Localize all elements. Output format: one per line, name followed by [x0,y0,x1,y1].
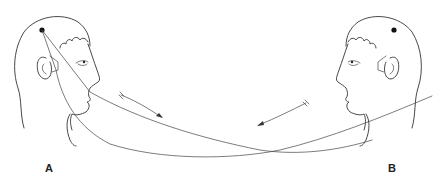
head-b [336,17,421,146]
eye-a [83,61,85,63]
head-a [15,17,100,146]
arrow-a [119,92,163,118]
electrode-dot-b [391,27,396,32]
panel-label-b: B [388,162,396,174]
diagram-canvas [0,0,436,194]
panel-label-a: A [45,162,53,174]
arrow-b [257,100,309,126]
